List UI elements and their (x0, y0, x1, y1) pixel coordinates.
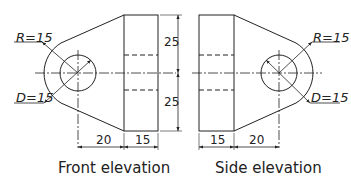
front-dim-top: 25 (164, 35, 179, 49)
side-radius-label: R=15 (313, 30, 349, 45)
side-caption: Side elevation (215, 159, 322, 177)
front-dim-left: 20 (96, 133, 111, 147)
front-diameter-label: D=15 (16, 90, 53, 105)
side-dim-left: 15 (210, 133, 225, 147)
side-dim-right: 20 (249, 133, 264, 147)
front-radius-label: R=15 (16, 30, 52, 45)
front-dim-right: 15 (135, 133, 150, 147)
front-caption: Front elevation (58, 159, 170, 177)
front-dim-bottom: 25 (164, 95, 179, 109)
side-diameter-label: D=15 (311, 90, 348, 105)
